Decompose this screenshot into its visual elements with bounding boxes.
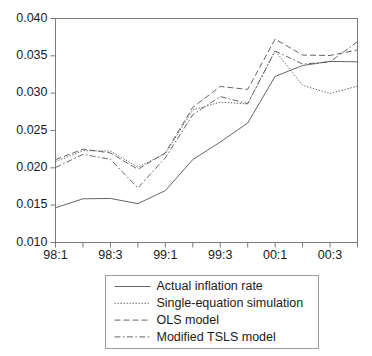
y-axis-tick-label: 0.035: [16, 48, 47, 62]
x-axis-tick-label: 99:1: [153, 248, 177, 262]
x-axis-tick-label: 00:3: [318, 248, 342, 262]
series-line: [56, 42, 358, 188]
chart-legend: Actual inflation rateSingle-equation sim…: [106, 276, 319, 349]
series-line: [56, 39, 358, 169]
axes-group: 0.0100.0150.0200.0250.0300.0350.04098:19…: [16, 11, 357, 263]
series-line: [56, 51, 358, 167]
chart-canvas: 0.0100.0150.0200.0250.0300.0350.04098:19…: [0, 0, 372, 356]
y-axis-tick-label: 0.030: [16, 85, 47, 99]
series-group: [56, 39, 358, 208]
legend-item-label: Modified TSLS model: [157, 330, 276, 344]
y-axis-tick-label: 0.040: [16, 11, 47, 25]
inflation-line-chart: 0.0100.0150.0200.0250.0300.0350.04098:19…: [0, 0, 372, 356]
x-axis-tick-label: 99:3: [208, 248, 232, 262]
series-line: [56, 61, 358, 207]
y-axis-tick-label: 0.015: [16, 197, 47, 211]
y-axis-tick-label: 0.025: [16, 123, 47, 137]
x-axis-tick-label: 98:3: [98, 248, 122, 262]
y-axis-tick-label: 0.010: [16, 235, 47, 249]
x-axis-tick-label: 98:1: [43, 248, 67, 262]
legend-item-label: Single-equation simulation: [157, 296, 304, 310]
y-axis-tick-label: 0.020: [16, 160, 47, 174]
legend-item-label: OLS model: [157, 313, 220, 327]
legend-item-label: Actual inflation rate: [157, 279, 263, 293]
plot-frame: [56, 19, 358, 243]
x-axis-tick-label: 00:1: [263, 248, 287, 262]
